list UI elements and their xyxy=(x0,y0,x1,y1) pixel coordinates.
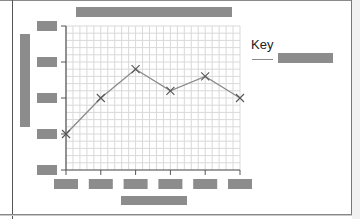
line-chart xyxy=(0,0,360,219)
y-tick-label-redacted xyxy=(37,21,57,31)
x-tick-label-redacted xyxy=(158,179,182,189)
y-tick-label-redacted xyxy=(37,57,57,67)
y-tick-label-redacted xyxy=(37,165,57,175)
x-tick-label-redacted xyxy=(124,179,148,189)
x-tick-label-redacted xyxy=(89,179,113,189)
x-tick-label-redacted xyxy=(193,179,217,189)
x-tick-label-redacted xyxy=(54,179,78,189)
y-tick-label-redacted xyxy=(37,129,57,139)
y-tick-label-redacted xyxy=(37,93,57,103)
series-line xyxy=(66,69,240,134)
x-tick-label-redacted xyxy=(228,179,252,189)
